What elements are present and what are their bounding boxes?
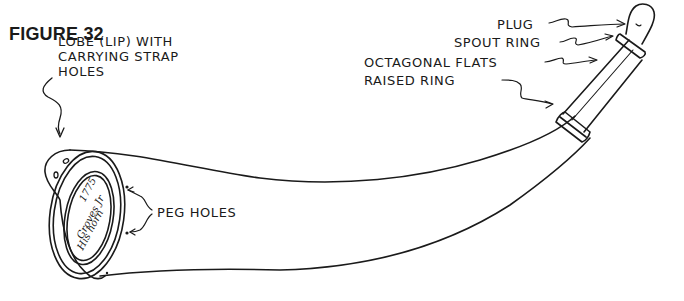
label-peg-holes: PEG HOLES — [157, 205, 236, 220]
strap-hole-upper — [63, 158, 70, 164]
label-plug: PLUG — [497, 17, 533, 32]
leader-octagonal — [545, 58, 596, 64]
label-lobe: LOBE (LIP) WITH CARRYING STRAP HOLES — [58, 34, 179, 79]
label-lobe-line-3: HOLES — [58, 64, 179, 79]
spout-left-edge — [563, 40, 629, 114]
horn-top-edge — [70, 116, 575, 182]
label-octagonal-flats: OCTAGONAL FLATS — [364, 55, 497, 70]
plug-outline — [626, 4, 654, 44]
leader-spout-ring — [560, 36, 612, 45]
plug-notch — [636, 24, 641, 26]
leader-raised-ring — [502, 80, 552, 104]
peg-hole-lower — [125, 231, 128, 234]
peg-hole-upper — [125, 185, 128, 188]
label-raised-ring: RAISED RING — [364, 73, 455, 88]
label-lobe-line-2: CARRYING STRAP — [58, 49, 179, 64]
strap-hole-lower — [54, 172, 58, 178]
peg-hole-bottom — [106, 272, 108, 274]
leader-peg-upper — [128, 190, 152, 210]
leader-peg-lower — [130, 214, 152, 232]
arrow-peg-upper — [128, 187, 134, 192]
label-lobe-line-1: LOBE (LIP) WITH — [58, 34, 179, 49]
leader-plug — [549, 19, 624, 27]
spout-ring — [616, 34, 645, 58]
arrow-raised-ring — [545, 101, 553, 108]
label-spout-ring: SPOUT RING — [454, 35, 541, 50]
leader-lobe — [43, 78, 61, 134]
